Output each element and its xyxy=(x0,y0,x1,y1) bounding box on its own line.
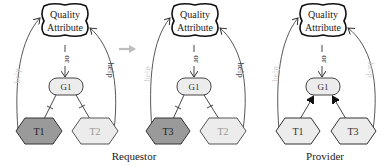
task-left-label: T1 xyxy=(33,126,44,137)
means-end-link-left xyxy=(173,95,184,119)
task-right-label: T2 xyxy=(217,126,228,137)
goal-label: G1 xyxy=(189,82,200,92)
task-left-label: T3 xyxy=(162,126,173,137)
help-label-left: help xyxy=(12,68,22,84)
diagram-provider: help help Quality Attribute or G1 T1 T3 xyxy=(270,4,376,144)
help-label-left: help xyxy=(270,66,280,82)
caption-requestor: Requestor xyxy=(112,150,157,162)
goal-label: G1 xyxy=(318,82,329,92)
caption-provider: Provider xyxy=(306,150,344,162)
means-end-link-right xyxy=(204,95,219,119)
means-end-link-right xyxy=(76,95,90,119)
help-link-right xyxy=(90,28,116,130)
task-right-label: T2 xyxy=(89,126,100,137)
diagram-requestor-before: help help Quality Attribute or G1 T1 T2 xyxy=(12,4,118,144)
softgoal-label-line1: Quality xyxy=(180,9,210,20)
help-label-left: help xyxy=(142,66,152,82)
softgoal-label-line2: Attribute xyxy=(47,22,84,33)
diagram-canvas: help help Quality Attribute or G1 T1 T2 … xyxy=(0,0,389,166)
help-label-right: help xyxy=(236,62,246,78)
goal-label: G1 xyxy=(61,82,72,92)
or-label: or xyxy=(63,55,73,63)
help-link-right xyxy=(348,28,375,130)
help-link-left xyxy=(278,18,298,130)
softgoal-label-line2: Attribute xyxy=(177,22,214,33)
task-right-label: T3 xyxy=(347,126,358,137)
softgoal-label-line2: Attribute xyxy=(305,22,342,33)
contribution-link-right xyxy=(333,97,346,119)
softgoal-label-line1: Quality xyxy=(50,9,80,20)
help-label-right: help xyxy=(366,62,376,78)
help-link-right xyxy=(220,28,245,130)
contribution-link-left xyxy=(300,97,313,119)
diagram-requestor-after: help help Quality Attribute or G1 T3 T2 xyxy=(142,4,246,144)
help-link-left xyxy=(151,18,170,130)
task-left-label: T1 xyxy=(292,126,303,137)
or-label: or xyxy=(320,55,330,63)
help-label-right: help xyxy=(106,62,116,78)
or-label: or xyxy=(192,55,202,63)
softgoal-label-line1: Quality xyxy=(308,9,338,20)
